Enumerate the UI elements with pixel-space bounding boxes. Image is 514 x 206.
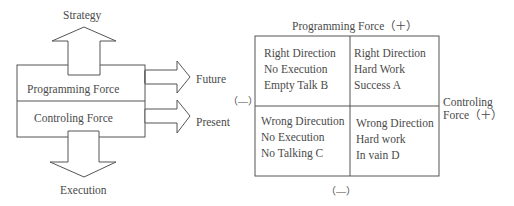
matrix-top-axis-label: Programming Force（＋） xyxy=(292,17,417,33)
quadrant-top-left: Right Direction No Execution Empty Talk … xyxy=(264,45,336,93)
quadrant-line: Right Direction xyxy=(264,45,336,61)
future-label: Future xyxy=(196,73,226,85)
right-arrow-present-icon xyxy=(145,100,190,133)
quadrant-line: Wrong Direcution xyxy=(261,113,345,129)
programming-force-label: Programming Force xyxy=(27,83,119,95)
quadrant-line: No Execution xyxy=(264,61,336,77)
strategy-label: Strategy xyxy=(63,9,101,21)
quadrant-line: Success A xyxy=(354,77,426,93)
present-label: Present xyxy=(196,116,230,128)
matrix-left-axis-label: （—） xyxy=(228,93,258,108)
matrix-right-axis-label-line1: Controling xyxy=(443,96,502,109)
quadrant-line: Wrong Direction xyxy=(356,115,434,131)
right-arrow-future-icon xyxy=(145,61,190,93)
quadrant-top-right: Right Direction Hard Work Success A xyxy=(354,45,426,93)
quadrant-line: No Execution xyxy=(261,129,345,145)
up-arrow-icon xyxy=(52,27,116,75)
quadrant-bottom-right: Wrong Direction Hard work In vain D xyxy=(356,115,434,163)
quadrant-line: In vain D xyxy=(356,147,434,163)
quadrant-line: Hard Work xyxy=(354,61,426,77)
quadrant-bottom-left: Wrong Direcution No Execution No Talking… xyxy=(261,113,345,161)
matrix-bottom-axis-label: （—） xyxy=(326,183,356,198)
matrix-right-axis-label-line2: Force（＋） xyxy=(443,109,502,122)
quadrant-line: Empty Talk B xyxy=(264,77,336,93)
quadrant-line: Right Direction xyxy=(354,45,426,61)
quadrant-line: Hard work xyxy=(356,131,434,147)
controling-force-label: Controling Force xyxy=(34,112,113,124)
quadrant-line: No Talking C xyxy=(261,145,345,161)
matrix-right-axis-label: Controling Force（＋） xyxy=(443,96,502,122)
execution-label: Execution xyxy=(60,184,107,196)
